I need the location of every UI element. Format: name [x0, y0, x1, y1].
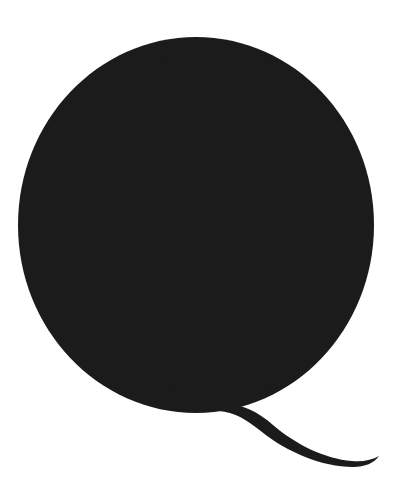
letter-q-glyph [0, 0, 399, 498]
glyph-group [18, 37, 379, 467]
letter-specimen-canvas: Q [0, 0, 399, 498]
q-counter-shape [80, 47, 358, 399]
q-tail-shape [219, 403, 379, 467]
